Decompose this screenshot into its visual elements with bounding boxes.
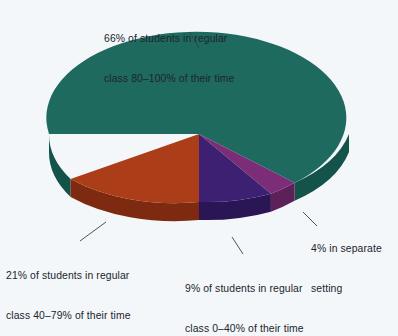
slice-label-9: 9% of students in regular class 0–40% of…: [185, 256, 304, 336]
slice-label-66-line1: 66% of students in regular: [104, 32, 234, 45]
leader-line-slice-21: [80, 222, 106, 241]
slice-label-4: 4% in separate setting: [311, 216, 382, 322]
slice-label-9-line1: 9% of students in regular: [185, 282, 304, 295]
slice-label-21-line2: class 40–79% of their time: [6, 309, 131, 322]
rim-slice-66-left: [49, 134, 71, 197]
leader-line-slice-9: [232, 237, 243, 254]
slice-label-4-line1: 4% in separate: [311, 242, 382, 255]
slice-label-21-line1: 21% of students in regular: [6, 269, 131, 282]
slice-label-4-line2: setting: [311, 282, 382, 295]
slice-label-9-line2: class 0–40% of their time: [185, 322, 304, 335]
slice-label-66: 66% of students in regular class 80–100%…: [104, 6, 234, 112]
slice-label-21: 21% of students in regular class 40–79% …: [6, 243, 131, 336]
slice-label-66-line2: class 80–100% of their time: [104, 72, 234, 85]
